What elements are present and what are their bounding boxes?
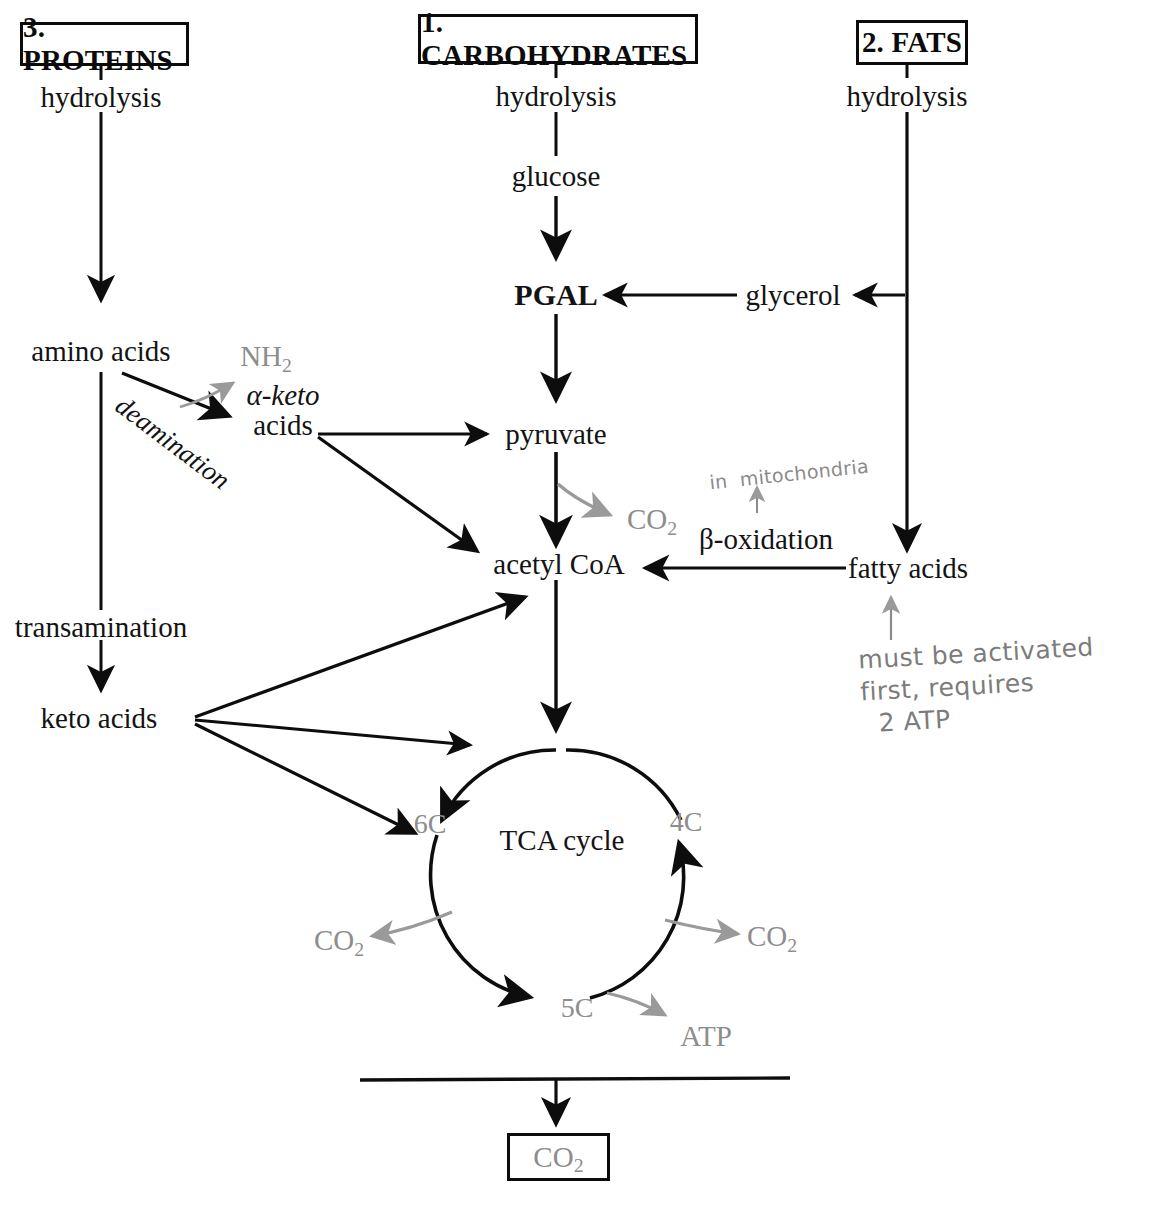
output-co2-subscript: 2 (574, 1154, 584, 1176)
carb-hydrolysis-label: hydrolysis (496, 81, 617, 111)
keto-acids-to-acetyl-coa-arrow (318, 437, 477, 551)
tca-cycle-ring (431, 750, 684, 998)
tca-co2-right-text: CO (747, 920, 787, 952)
nh2-label: NH2 (240, 341, 292, 371)
tca-co2-left-text: CO (314, 924, 354, 956)
pgal-label: PGAL (514, 279, 597, 311)
transamination-label: transamination (15, 612, 187, 642)
keto-acids-branch-arrows (195, 597, 525, 833)
title-box-proteins-label: 3. PROTEINS (23, 11, 186, 77)
title-box-carbohydrates[interactable]: 1. CARBOHYDRATES (418, 14, 698, 64)
output-co2-text: CO (533, 1141, 574, 1173)
tca-atp-arrow (607, 993, 665, 1015)
tca-co2-left-subscript: 2 (354, 938, 364, 960)
tca-node-5c-label: 5C (561, 993, 594, 1022)
nh2-text: NH (240, 340, 282, 372)
amino-acids-label: amino acids (31, 336, 170, 366)
tca-co2-right-label: CO2 (747, 921, 797, 951)
metabolism-diagram-page: 3. PROTEINS 1. CARBOHYDRATES 2. FATS hyd… (0, 0, 1166, 1214)
pyruvate-co2-text: CO (627, 503, 667, 535)
tca-co2-right-subscript: 2 (787, 934, 797, 956)
protein-hydrolysis-label: hydrolysis (41, 82, 162, 112)
pyruvate-co2-subscript: 2 (667, 517, 677, 539)
activation-note: must be activated first, requires 2 ATP (858, 631, 1099, 740)
output-co2-label: CO2 (533, 1141, 584, 1174)
fatty-acids-label: fatty acids (848, 553, 968, 583)
keto-acids-label: keto acids (41, 703, 158, 733)
alpha-keto-line2: acids (253, 409, 313, 441)
title-box-carbohydrates-label: 1. CARBOHYDRATES (421, 6, 695, 72)
glycerol-label: glycerol (745, 280, 840, 310)
acetyl-coa-label: acetyl CoA (493, 549, 624, 579)
pyruvate-co2-arrow (558, 484, 610, 515)
tca-co2-left-label: CO2 (314, 925, 364, 955)
summary-bar-and-output-arrow (360, 1078, 790, 1124)
pyruvate-label: pyruvate (505, 419, 606, 449)
pyruvate-co2-label: CO2 (627, 504, 677, 534)
beta-oxidation-label: β-oxidation (699, 524, 833, 554)
nh2-subscript: 2 (282, 354, 292, 376)
tca-node-4c-label: 4C (670, 807, 703, 836)
tca-co2-right-arrow (665, 920, 738, 934)
fat-hydrolysis-label: hydrolysis (847, 81, 968, 111)
title-box-fats[interactable]: 2. FATS (856, 20, 968, 65)
title-box-proteins[interactable]: 3. PROTEINS (20, 22, 189, 66)
tca-atp-label: ATP (680, 1021, 732, 1051)
tca-cycle-center-label: TCA cycle (500, 825, 625, 855)
glucose-label: glucose (512, 161, 601, 191)
tca-node-6c-label: 6C (414, 809, 447, 838)
alpha-keto-acids-label: α-keto acids (246, 380, 319, 441)
alpha-keto-line1: α-keto (246, 379, 319, 411)
title-box-fats-label: 2. FATS (862, 26, 962, 59)
nh2-release-arrow (180, 383, 233, 407)
output-box-co2[interactable]: CO2 (507, 1133, 610, 1181)
